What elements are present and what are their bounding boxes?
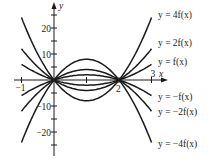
curve-label-4f: y = 4f(x) (158, 10, 192, 21)
y-tick-label: −10 (36, 102, 51, 112)
x-tick-label: −1 (16, 83, 26, 93)
function-transform-diagram: −1232010−10−20 x y y = 4f(x)y = 2f(x)y =… (0, 0, 211, 165)
curve-label-f: y = f(x) (158, 57, 187, 68)
y-tick-label: 20 (42, 24, 52, 34)
x-tick-label: 3 (151, 69, 156, 79)
curve-label-neg-2f: y = −2f(x) (158, 107, 197, 118)
y-tick-label: −20 (36, 128, 51, 138)
x-axis-label: x (158, 69, 164, 79)
x-tick-label: 2 (116, 84, 121, 94)
curve-label-neg-f: y = −f(x) (158, 92, 192, 103)
curve-label-neg-4f: y = −4f(x) (158, 139, 197, 150)
y-tick-label: 10 (42, 50, 52, 60)
y-axis-arrow-icon (52, 2, 57, 9)
y-axis-label: y (58, 1, 64, 11)
curve-label-2f: y = 2f(x) (158, 38, 192, 49)
